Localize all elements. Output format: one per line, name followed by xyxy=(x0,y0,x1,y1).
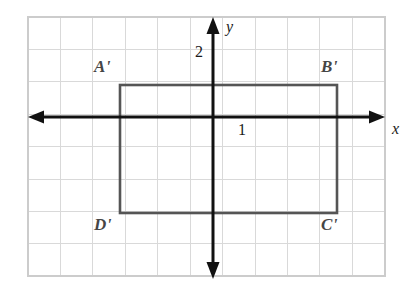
vertex-label-c-prime: C' xyxy=(321,216,338,233)
y-axis-arrow-up xyxy=(207,17,220,34)
x-axis-tick-label-1: 1 xyxy=(238,122,246,138)
x-axis-arrow-left xyxy=(28,111,44,124)
x-axis xyxy=(28,111,385,124)
grid-lines xyxy=(28,17,385,276)
graph-svg xyxy=(0,0,417,291)
x-axis-label: x xyxy=(392,121,399,137)
rectangle-a-b-c-d-prime xyxy=(120,85,337,213)
coordinate-grid-figure: A' B' C' D' y x 2 1 xyxy=(0,0,417,291)
y-axis-label: y xyxy=(226,19,233,35)
vertex-label-a-prime: A' xyxy=(94,58,111,75)
y-axis xyxy=(207,17,220,279)
y-axis-tick-label-2: 2 xyxy=(195,44,203,60)
vertex-label-d-prime: D' xyxy=(94,216,112,233)
vertex-label-b-prime: B' xyxy=(321,58,338,75)
x-axis-arrow-right xyxy=(369,111,385,124)
